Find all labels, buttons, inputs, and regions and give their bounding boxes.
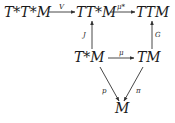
label-mu: μ [119,49,124,57]
node-tstar-m: T*M [74,49,105,65]
arrow-p [100,67,119,101]
commutative-diagram: T*T*M TT*M TTM T*M TM M V μ* J G μ p π [0,0,175,123]
label-v: V [59,3,65,11]
arrow-pi [124,67,143,101]
node-m: M [114,100,130,116]
label-pi: π [135,87,141,95]
node-ttm: TTM [136,4,170,20]
label-g: G [155,31,161,39]
node-tstar-tstar-m: T*T*M [4,4,52,20]
label-j: J [81,31,87,39]
node-tm: TM [137,49,161,65]
label-p: p [102,87,107,95]
label-mu-star: μ* [117,3,126,11]
